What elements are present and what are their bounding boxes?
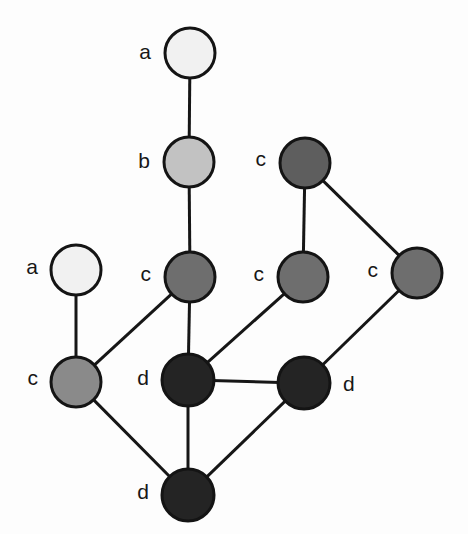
node-label-d3: d [137, 480, 149, 503]
graph-node-b1[interactable] [164, 137, 214, 187]
node-label-d1: d [137, 366, 149, 389]
graph-edge-c1-c5 [93, 293, 173, 367]
node-label-d2: d [343, 372, 355, 395]
node-label-b1: b [138, 149, 150, 172]
node-label-c3: c [254, 262, 265, 285]
node-label-a1: a [139, 40, 151, 63]
node-label-c1: c [141, 262, 152, 285]
nodes-layer [51, 28, 442, 521]
graph-edge-c3-c2 [303, 186, 304, 254]
graph-node-d2[interactable] [278, 357, 330, 409]
graph-edge-d1-d2 [212, 381, 280, 383]
graph-edge-c2-c4 [321, 179, 400, 257]
graph-node-c1[interactable] [165, 252, 215, 302]
graph-svg: abcaccccddd [0, 0, 468, 534]
graph-node-c2[interactable] [280, 138, 330, 188]
graph-node-a1[interactable] [165, 28, 215, 78]
graph-edge-c5-d3 [92, 398, 171, 478]
graph-edge-c1-d1 [188, 300, 189, 356]
graph-edge-d2-d3 [205, 400, 286, 479]
graph-node-d1[interactable] [162, 354, 214, 406]
node-label-c5: c [28, 366, 39, 389]
graph-node-a2[interactable] [51, 245, 101, 295]
graph-canvas: abcaccccddd [0, 0, 468, 534]
graph-edge-d1-c3 [206, 292, 286, 364]
node-label-a2: a [26, 255, 38, 278]
node-label-c2: c [256, 147, 267, 170]
graph-edge-a1-b1 [189, 76, 190, 139]
graph-edge-b1-c1 [189, 185, 190, 254]
graph-node-c5[interactable] [51, 357, 101, 407]
graph-node-c4[interactable] [392, 248, 442, 298]
edges-layer [76, 76, 401, 478]
node-label-c4: c [368, 258, 379, 281]
graph-edge-c4-d2 [321, 289, 400, 366]
graph-node-d3[interactable] [162, 469, 214, 521]
graph-node-c3[interactable] [278, 252, 328, 302]
